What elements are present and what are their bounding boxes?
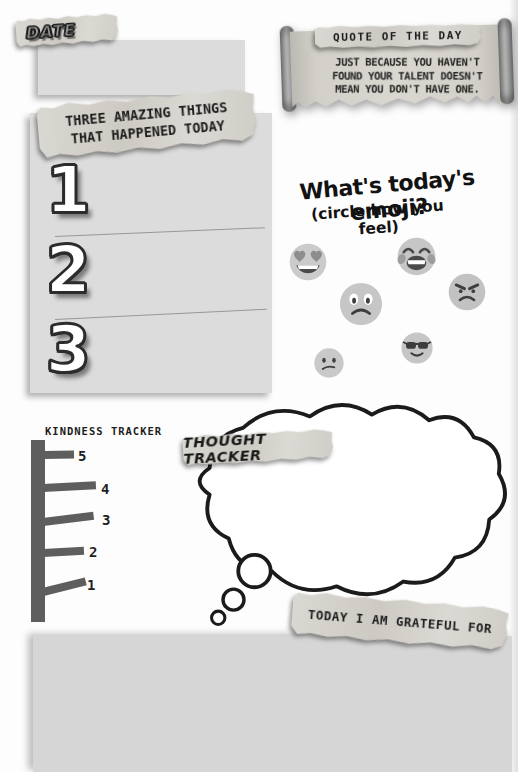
emoji-option-frowning-icon[interactable] — [338, 281, 384, 327]
quote-line: JUST BECAUSE YOU HAVEN'T — [313, 56, 501, 70]
amazing-item-number-3: 3 — [46, 317, 91, 381]
kindness-level-5[interactable]: 5 — [78, 448, 86, 464]
quote-title-tape: QUOTE OF THE DAY — [315, 24, 481, 49]
kindness-level-4[interactable]: 4 — [101, 481, 109, 497]
emoji-option-heart-eyes-icon[interactable] — [288, 242, 328, 282]
kindness-branch-3 — [43, 512, 95, 526]
journal-page: DATE JUST BECAUSE YOU HAVEN'T FOUND YOUR… — [0, 0, 518, 772]
kindness-branch-4 — [43, 481, 96, 492]
emoji-option-angry-icon[interactable] — [447, 272, 487, 312]
emoji-option-cool-sunglasses-icon[interactable] — [400, 331, 434, 365]
date-label: DATE — [25, 20, 76, 42]
quote-line: FOUND YOUR TALENT DOESN'T — [313, 69, 501, 83]
grateful-title: TODAY I AM GRATEFUL FOR — [307, 606, 492, 635]
thought-bubble-small — [212, 611, 225, 624]
date-input-box[interactable] — [38, 40, 245, 95]
thought-bubble-medium — [223, 589, 244, 610]
kindness-level-2[interactable]: 2 — [89, 544, 97, 560]
kindness-branch-1 — [42, 577, 87, 595]
kindness-tracker-title: KINDNESS TRACKER — [45, 425, 162, 437]
scroll-roll-right-icon — [497, 18, 514, 104]
kindness-scale-bar — [31, 440, 45, 622]
quote-line: MEAN YOU DON'T HAVE ONE. — [313, 83, 501, 97]
emoji-option-confused-icon[interactable] — [313, 347, 345, 379]
amazing-item-number-2: 2 — [46, 238, 91, 302]
quote-text: JUST BECAUSE YOU HAVEN'T FOUND YOUR TALE… — [313, 56, 501, 97]
quote-title: QUOTE OF THE DAY — [333, 28, 463, 43]
thought-bubble-large — [238, 555, 270, 587]
amazing-item-number-1: 1 — [46, 158, 91, 222]
kindness-branch-5 — [43, 450, 74, 459]
kindness-branch-2 — [43, 547, 84, 557]
emoji-option-laughing-tears-icon[interactable] — [396, 236, 437, 277]
kindness-level-3[interactable]: 3 — [102, 512, 110, 528]
kindness-level-1[interactable]: 1 — [87, 577, 95, 593]
kindness-tracker-scale: 5 4 3 2 1 — [28, 438, 158, 628]
grateful-input-box[interactable] — [33, 636, 512, 772]
